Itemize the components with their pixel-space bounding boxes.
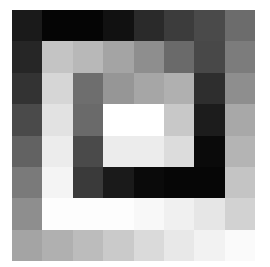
grid-cell <box>134 136 164 167</box>
grid-cell <box>42 104 72 135</box>
grid-cell <box>12 41 42 72</box>
grid-cell <box>12 198 42 229</box>
grid-cell <box>194 136 224 167</box>
grid-cell <box>73 73 103 104</box>
grid-cell <box>164 73 194 104</box>
grid-cell <box>12 104 42 135</box>
grid-cell <box>164 136 194 167</box>
grid-cell <box>134 73 164 104</box>
grid-cell <box>103 230 133 261</box>
grid-cell <box>42 167 72 198</box>
grid-cell <box>73 230 103 261</box>
grid-cell <box>194 41 224 72</box>
grid-cell <box>194 230 224 261</box>
grid-cell <box>194 10 224 41</box>
grid-cell <box>164 104 194 135</box>
grid-cell <box>42 136 72 167</box>
grayscale-pixel-grid <box>12 10 255 261</box>
grid-cell <box>73 167 103 198</box>
grid-cell <box>103 41 133 72</box>
grid-cell <box>225 167 255 198</box>
grid-cell <box>225 230 255 261</box>
grid-cell <box>103 198 133 229</box>
grid-cell <box>103 136 133 167</box>
grid-cell <box>103 73 133 104</box>
grid-cell <box>73 136 103 167</box>
grid-cell <box>42 41 72 72</box>
grid-cell <box>12 73 42 104</box>
grid-cell <box>103 167 133 198</box>
grid-cell <box>225 104 255 135</box>
grid-cell <box>134 230 164 261</box>
grid-cell <box>103 104 133 135</box>
grid-cell <box>42 198 72 229</box>
grid-cell <box>194 167 224 198</box>
grid-cell <box>134 10 164 41</box>
grid-cell <box>134 41 164 72</box>
grid-cell <box>134 198 164 229</box>
grid-cell <box>225 73 255 104</box>
grid-cell <box>225 136 255 167</box>
grid-cell <box>12 230 42 261</box>
grid-cell <box>42 10 72 41</box>
grid-cell <box>194 198 224 229</box>
grid-cell <box>12 167 42 198</box>
grid-cell <box>194 104 224 135</box>
grid-cell <box>164 230 194 261</box>
grid-cell <box>12 10 42 41</box>
grid-cell <box>164 198 194 229</box>
grid-cell <box>103 10 133 41</box>
grid-cell <box>73 10 103 41</box>
grid-cell <box>42 230 72 261</box>
grid-cell <box>12 136 42 167</box>
grid-cell <box>194 73 224 104</box>
grid-cell <box>225 41 255 72</box>
grid-cell <box>164 10 194 41</box>
grid-cell <box>225 10 255 41</box>
grid-cell <box>164 167 194 198</box>
grid-cell <box>225 198 255 229</box>
grid-cell <box>134 167 164 198</box>
grid-cell <box>164 41 194 72</box>
grid-cell <box>73 104 103 135</box>
grid-cell <box>42 73 72 104</box>
grid-cell <box>134 104 164 135</box>
grid-cell <box>73 198 103 229</box>
grid-cell <box>73 41 103 72</box>
